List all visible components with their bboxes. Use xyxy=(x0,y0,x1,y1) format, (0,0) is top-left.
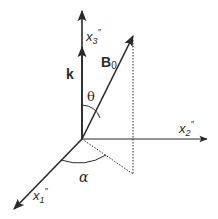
b0-vector xyxy=(82,36,133,139)
x2-axis-label: x2″ xyxy=(178,119,195,138)
x3-axis-label: x3″ xyxy=(85,27,102,46)
x1-axis-label: x1″ xyxy=(32,186,49,205)
x1-axis xyxy=(14,139,82,209)
alpha-arc xyxy=(61,155,106,163)
b0-label: B0 xyxy=(101,54,117,71)
projection-horizontal-dotted xyxy=(82,139,133,174)
coordinate-diagram: x3″ k B0 θ x2″ α x1″ xyxy=(0,0,218,219)
alpha-label: α xyxy=(79,169,89,185)
theta-label: θ xyxy=(87,89,95,104)
k-label: k xyxy=(66,66,74,82)
